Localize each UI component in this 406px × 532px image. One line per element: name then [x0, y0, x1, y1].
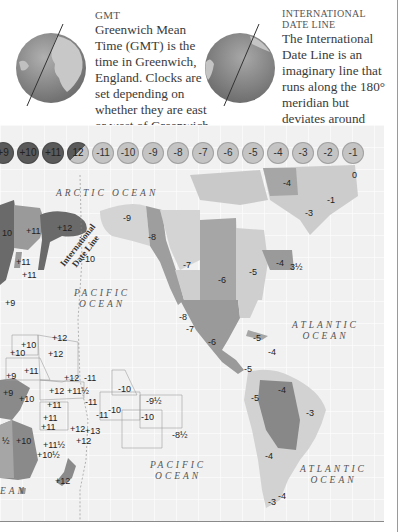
- zone-offset-label: -5: [244, 364, 252, 374]
- tz-circle: +10: [17, 142, 39, 164]
- zone-offset-label: +11: [26, 226, 41, 236]
- zone-offset-label: -5: [251, 393, 259, 403]
- pacific-north-line1: PACIFIC: [74, 288, 130, 298]
- zone-offset-label: +11½: [43, 440, 65, 450]
- atlantic-south-line2: OCEAN: [310, 475, 356, 485]
- page-right-border: [397, 0, 398, 532]
- pacific-ocean-north-label: PACIFIC OCEAN: [74, 288, 130, 310]
- pacific-north-line2: OCEAN: [79, 299, 125, 309]
- tz-circle: -3: [292, 142, 314, 164]
- zone-offset-label: +11: [41, 422, 56, 432]
- zone-offset-label: -11: [85, 397, 97, 407]
- zone-offset-label: -5: [249, 267, 257, 277]
- gmt-description: Greenwich Mean Time (GMT) is the time in…: [95, 22, 213, 134]
- tz-circle: -1: [342, 142, 364, 164]
- tz-circle: +11: [42, 142, 64, 164]
- date-line-heading-line1: International: [282, 8, 366, 19]
- zone-offset-label: -3: [305, 208, 313, 218]
- date-line-globe-illustration: [200, 22, 278, 108]
- zone-offset-label: -8½: [172, 430, 188, 440]
- zone-offset-label: -8: [148, 232, 156, 242]
- zone-offset-label: +11: [16, 257, 31, 267]
- page-bottom-border: [0, 521, 384, 522]
- zone-offset-label: -3: [306, 408, 314, 418]
- zone-offset-label: +12: [57, 223, 72, 233]
- zone-offset-label: -6: [208, 337, 216, 347]
- gmt-heading: GMT: [95, 10, 213, 21]
- zone-offset-label: -9: [123, 213, 131, 223]
- tz-circle: -7: [192, 142, 214, 164]
- zone-offset-label: -4: [283, 178, 291, 188]
- tz-circle: -5: [242, 142, 264, 164]
- zone-offset-label: +12: [48, 349, 63, 359]
- tz-circle: -6: [217, 142, 239, 164]
- zone-offset-label: +12: [49, 386, 64, 396]
- zone-offset-label: -3: [268, 497, 276, 507]
- pacific-south-line2: OCEAN: [155, 471, 201, 481]
- pacific-south-line1: PACIFIC: [150, 460, 206, 470]
- zone-offset-label: -5: [253, 333, 261, 343]
- atlantic-ocean-north-label: ATLANTIC OCEAN: [292, 320, 359, 342]
- date-line-info-panel: International Date Line The Internationa…: [282, 8, 394, 143]
- zone-offset-label: +9: [3, 388, 13, 398]
- zone-offset-label: -10: [118, 384, 131, 394]
- zone-offset-label: -4: [276, 258, 284, 268]
- date-line-heading-line2: Date Line: [282, 19, 336, 30]
- zone-offset-label: +10: [16, 436, 31, 446]
- pacific-ocean-south-label: PACIFIC OCEAN: [150, 460, 206, 482]
- zone-offset-label: -4: [278, 385, 286, 395]
- zone-offset-label: +11: [24, 366, 39, 376]
- zone-offset-label: -1: [327, 195, 335, 205]
- zone-offset-label: +11½: [67, 386, 89, 396]
- zone-offset-label: +11: [22, 270, 37, 280]
- zone-offset-label: +10: [19, 394, 34, 404]
- zone-offset-label: -7: [183, 260, 191, 270]
- tz-circle: -2: [317, 142, 339, 164]
- tz-circle: -9: [142, 142, 164, 164]
- zone-offset-label: -9½: [146, 396, 162, 406]
- tz-circle: 12: [67, 142, 89, 164]
- zone-offset-label: +12: [55, 476, 70, 486]
- atlantic-north-line1: ATLANTIC: [292, 320, 359, 330]
- zone-offset-label: -10: [82, 254, 95, 264]
- zone-offset-label: +12: [64, 373, 79, 383]
- zone-offset-label: -11: [84, 373, 96, 383]
- zone-offset-label: +12: [52, 333, 67, 343]
- zone-offset-label: 10: [2, 228, 12, 238]
- zone-offset-label: +9: [5, 298, 15, 308]
- arctic-ocean-label: ARCTIC OCEAN: [56, 188, 158, 199]
- zone-offset-label: -7: [186, 324, 194, 334]
- zone-offset-label: +9: [6, 371, 16, 381]
- zone-offset-label: -4: [278, 491, 286, 501]
- zone-offset-label: -11: [96, 410, 108, 420]
- zone-offset-label: 0: [352, 170, 357, 180]
- zone-offset-label: -10: [108, 405, 121, 415]
- tz-circle: -8: [167, 142, 189, 164]
- tz-circle: -10: [117, 142, 139, 164]
- zone-offset-label: +13: [85, 426, 100, 436]
- zone-offset-label: +10: [10, 348, 25, 358]
- zone-offset-label: +12: [70, 424, 85, 434]
- atlantic-ocean-south-label: ATLANTIC OCEAN: [300, 464, 367, 486]
- gmt-info-panel: GMT Greenwich Mean Time (GMT) is the tim…: [95, 10, 213, 134]
- tz-circle: -11: [92, 142, 114, 164]
- zone-offset-label: +12: [76, 436, 91, 446]
- zone-offset-label: -4: [268, 347, 276, 357]
- zone-offset-label: +10½: [37, 450, 60, 460]
- gmt-globe-illustration: [13, 22, 89, 108]
- atlantic-south-line1: ATLANTIC: [300, 464, 367, 474]
- zone-offset-label: -6: [218, 275, 226, 285]
- tz-circle: -4: [267, 142, 289, 164]
- zone-offset-label: -4: [265, 451, 273, 461]
- zone-offset-label: ½: [2, 436, 10, 446]
- zone-offset-label: +11: [47, 400, 62, 410]
- zone-offset-label: -10: [141, 412, 154, 422]
- zone-offset-label: -8: [179, 312, 187, 322]
- zone-offset-label: 3½: [290, 262, 303, 272]
- date-line-heading: International Date Line: [282, 8, 394, 30]
- atlantic-north-line2: OCEAN: [302, 331, 348, 341]
- indian-ocean-fragment-label: EAN: [0, 486, 27, 497]
